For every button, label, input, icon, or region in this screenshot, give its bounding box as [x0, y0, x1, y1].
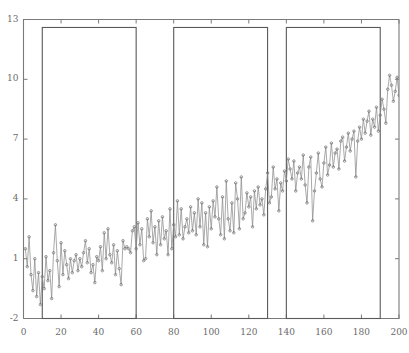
y-tick-label-7: 7: [13, 133, 19, 143]
x-tick-label-100: 100: [196, 327, 226, 337]
y-tick-label--2: -2: [10, 313, 19, 323]
highlight-region-2: [174, 27, 268, 318]
highlight-regions-group: [42, 27, 380, 318]
axis-spine-bottom-right: [24, 20, 400, 319]
data-markers-group: [24, 74, 400, 306]
x-tick-label-120: 120: [234, 327, 264, 337]
x-tick-label-0: 0: [9, 327, 39, 337]
x-tick-label-20: 20: [46, 327, 76, 337]
axes-group: [24, 20, 400, 319]
y-tick-label-4: 4: [13, 193, 19, 203]
data-series-group: [25, 75, 399, 304]
x-tick-label-80: 80: [159, 327, 189, 337]
x-tick-label-180: 180: [346, 327, 376, 337]
y-tick-label-10: 10: [7, 73, 18, 83]
y-tick-label-1: 1: [13, 253, 19, 263]
x-tick-label-160: 160: [309, 327, 339, 337]
x-tick-label-40: 40: [84, 327, 114, 337]
highlight-region-1: [42, 27, 136, 318]
x-tick-label-200: 200: [384, 327, 409, 337]
chart-figure: -21471013 020406080100120140160180200: [0, 0, 409, 353]
series-line: [25, 75, 399, 304]
axis-spine-left-top: [24, 20, 400, 319]
y-tick-label-13: 13: [7, 14, 18, 24]
plot-canvas: [0, 0, 409, 353]
x-tick-label-140: 140: [271, 327, 301, 337]
x-tick-label-60: 60: [121, 327, 151, 337]
